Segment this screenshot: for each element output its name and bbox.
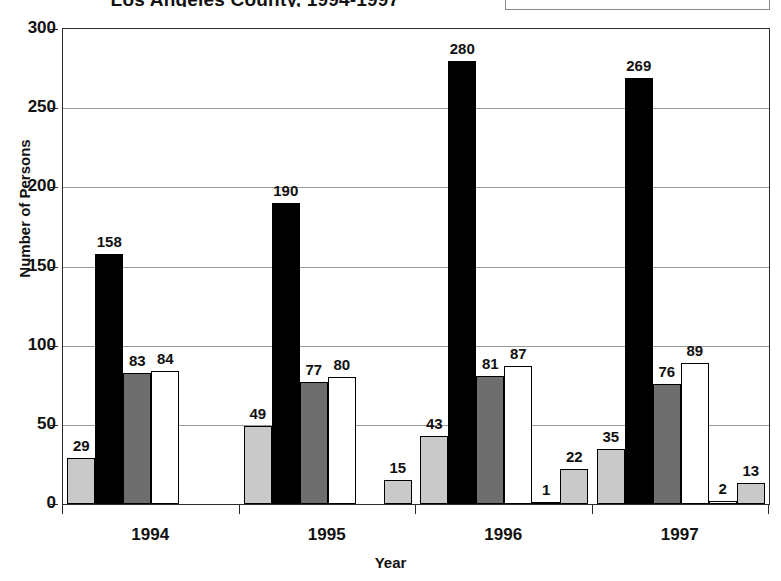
bar-value-label: 43 — [426, 415, 443, 432]
bar — [625, 78, 653, 504]
bar — [244, 426, 272, 504]
x-tick-label: 1994 — [90, 525, 210, 545]
bar — [737, 483, 765, 504]
bar — [448, 61, 476, 504]
x-tick-mark — [62, 505, 63, 514]
bar-value-label: 35 — [602, 428, 619, 445]
chart-legend: Other — [505, 0, 770, 10]
bar — [95, 254, 123, 504]
gridline — [63, 108, 769, 109]
bar-value-label: 190 — [273, 182, 298, 199]
y-tick-label: 100 — [4, 335, 56, 355]
bar-value-label: 13 — [742, 462, 759, 479]
bar — [560, 469, 588, 504]
bar — [420, 436, 448, 504]
bar-value-label: 29 — [73, 437, 90, 454]
bar — [384, 480, 412, 504]
x-tick-label: 1995 — [267, 525, 387, 545]
chart-title: Los Angeles County, 1994-1997 — [40, 0, 470, 7]
bar — [476, 376, 504, 504]
bar — [272, 203, 300, 504]
bar-value-label: 2 — [719, 480, 727, 497]
bar — [67, 458, 95, 504]
bar — [504, 366, 532, 504]
bar — [681, 363, 709, 504]
x-tick-mark — [592, 505, 593, 514]
x-axis: 1994199519961997 — [62, 505, 770, 545]
y-tick-label: 0 — [4, 493, 56, 513]
x-tick-mark — [768, 505, 769, 514]
gridline — [63, 267, 769, 268]
x-tick-label: 1997 — [620, 525, 740, 545]
bar-value-label: 80 — [333, 356, 350, 373]
bar-value-label: 1 — [542, 481, 550, 498]
bar — [300, 382, 328, 504]
plot-area: 2915883844919077801543280818712235269768… — [62, 28, 770, 505]
bar-value-label: 87 — [510, 345, 527, 362]
bar-value-label: 76 — [658, 363, 675, 380]
bar-value-label: 49 — [249, 405, 266, 422]
x-axis-label: Year — [0, 554, 781, 571]
bar-value-label: 269 — [626, 57, 651, 74]
x-tick-mark — [239, 505, 240, 514]
bar — [151, 371, 179, 504]
bar-value-label: 89 — [686, 342, 703, 359]
bar-value-label: 84 — [157, 350, 174, 367]
bar — [532, 502, 560, 504]
x-tick-mark — [415, 505, 416, 514]
bar — [597, 449, 625, 504]
bar-value-label: 15 — [389, 459, 406, 476]
bar-value-label: 83 — [129, 352, 146, 369]
bar — [653, 384, 681, 504]
bar-value-label: 81 — [482, 355, 499, 372]
bar-value-label: 158 — [97, 233, 122, 250]
gridline — [63, 346, 769, 347]
bar — [328, 377, 356, 504]
bar-value-label: 280 — [450, 40, 475, 57]
bar-value-label: 77 — [305, 361, 322, 378]
y-tick-label: 300 — [4, 18, 56, 38]
x-tick-label: 1996 — [443, 525, 563, 545]
bar — [709, 501, 737, 504]
y-tick-label: 50 — [4, 414, 56, 434]
gridline — [63, 187, 769, 188]
bar — [123, 373, 151, 504]
y-axis-label: Number of Persons — [16, 99, 33, 319]
bar-value-label: 22 — [566, 448, 583, 465]
